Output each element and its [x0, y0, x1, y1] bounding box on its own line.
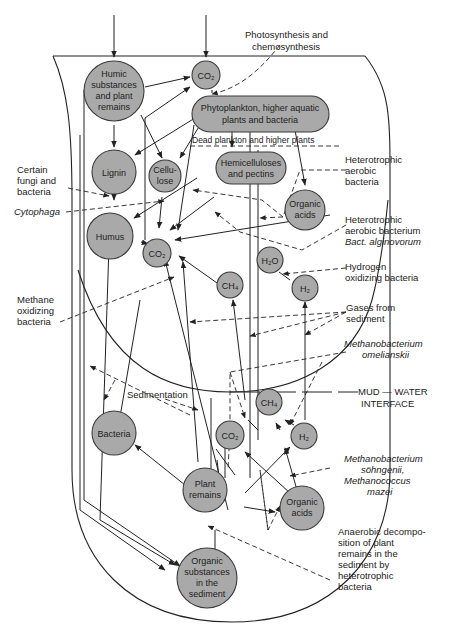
svg-text:Organic: Organic: [286, 497, 318, 507]
svg-text:omelianskii: omelianskii: [362, 349, 410, 360]
svg-text:substances: substances: [91, 80, 137, 90]
node-bacteria: Bacteria: [92, 411, 136, 455]
svg-text:sediment by: sediment by: [338, 559, 389, 570]
svg-text:CH₄: CH₄: [222, 281, 239, 291]
label-methanobacterium-omelianskii: Methanobacterium omelianskii: [344, 338, 423, 360]
svg-text:Methane: Methane: [17, 294, 54, 305]
svg-text:Bact. alginovorum: Bact. alginovorum: [345, 236, 421, 247]
svg-text:bacteria: bacteria: [17, 186, 52, 197]
node-phytoplankton: Phytoplankton, higher aquatic plants and…: [192, 96, 329, 132]
svg-text:Methanobacterium: Methanobacterium: [344, 338, 423, 349]
svg-text:Certain: Certain: [17, 164, 48, 175]
node-co2-low: CO₂: [216, 421, 244, 449]
label-methane-oxidizing: Methane oxidizing bacteria: [17, 294, 54, 327]
node-cellulose: Cellu- lose: [149, 160, 181, 192]
svg-text:Organic: Organic: [289, 199, 321, 209]
svg-text:sition of plant: sition of plant: [338, 537, 394, 548]
svg-text:heterotrophic: heterotrophic: [338, 570, 394, 581]
svg-text:INTERFACE: INTERFACE: [361, 398, 414, 409]
svg-text:Anaerobic decompo-: Anaerobic decompo-: [338, 526, 426, 537]
node-humic-substances: Humic substances and plant remains: [84, 61, 144, 121]
svg-text:substances: substances: [184, 567, 230, 577]
svg-text:Methanococcus: Methanococcus: [344, 475, 411, 486]
svg-text:CO₂: CO₂: [149, 249, 167, 259]
svg-text:H₂: H₂: [300, 284, 310, 294]
svg-text:plants and bacteria: plants and bacteria: [222, 115, 298, 125]
svg-text:H₂O: H₂O: [262, 256, 279, 266]
svg-text:aerobic: aerobic: [345, 165, 376, 176]
svg-text:CO₂: CO₂: [222, 431, 240, 441]
svg-text:Methanobacterium: Methanobacterium: [344, 453, 423, 464]
svg-text:Heterotrophic: Heterotrophic: [345, 214, 402, 225]
label-methanobacterium-sohngenii: Methanobacterium söhngenii, Methanococcu…: [344, 453, 423, 497]
node-h2-mid: H₂: [292, 275, 318, 301]
node-h2-low: H₂: [291, 423, 317, 449]
node-co2-mid: CO₂: [143, 239, 171, 267]
label-dead-plankton: Dead plankton and higher plants: [192, 135, 314, 145]
label-heterotrophic-aerobic-bacteria: Heterotrophic aerobic bacteria: [345, 154, 402, 187]
label-cytophaga: Cytophaga: [14, 206, 60, 217]
node-ch4-low: CH₄: [256, 389, 282, 415]
label-heterotrophic-aerobic-bacterium: Heterotrophic aerobic bacterium Bact. al…: [345, 214, 421, 247]
label-gases-from-sediment: Gases from sediment: [346, 302, 395, 324]
svg-text:chemosynthesis: chemosynthesis: [252, 41, 320, 52]
node-hemicelluloses: Hemicelluloses and pectins: [216, 152, 286, 184]
node-plant-remains: Plant remains: [183, 468, 227, 512]
svg-text:lose: lose: [157, 176, 174, 186]
svg-text:H₂: H₂: [299, 432, 309, 442]
svg-text:and pectins: and pectins: [228, 169, 275, 179]
svg-text:sediment: sediment: [189, 589, 226, 599]
svg-text:bacteria: bacteria: [338, 581, 373, 592]
svg-text:bacteria: bacteria: [17, 316, 52, 327]
svg-text:acids: acids: [291, 508, 313, 518]
svg-text:Hemicelluloses: Hemicelluloses: [221, 158, 282, 168]
lake-carbon-cycle-diagram: Humic substances and plant remains CO₂ P…: [0, 0, 450, 632]
node-organic-acids-low: Organic acids: [280, 486, 324, 530]
svg-text:Gases from: Gases from: [346, 302, 395, 313]
node-humus: Humus: [87, 213, 133, 259]
svg-text:CO₂: CO₂: [198, 71, 216, 81]
svg-text:Hydrogen: Hydrogen: [345, 261, 386, 272]
svg-text:Humus: Humus: [96, 232, 125, 242]
svg-text:and plant: and plant: [95, 91, 133, 101]
svg-text:remains: remains: [98, 102, 131, 112]
svg-text:MUD — WATER: MUD — WATER: [358, 386, 428, 397]
node-organic-substances-sediment: Organic substances in the sediment: [177, 548, 237, 608]
svg-text:Bacteria: Bacteria: [97, 429, 130, 439]
node-co2-top: CO₂: [192, 61, 220, 89]
svg-text:remains in the: remains in the: [338, 548, 398, 559]
svg-text:mazei: mazei: [367, 486, 393, 497]
svg-text:Organic: Organic: [191, 556, 223, 566]
svg-text:Cellu-: Cellu-: [153, 165, 177, 175]
label-mud-water-interface: MUD — WATER INTERFACE: [358, 386, 428, 409]
svg-text:Lignin: Lignin: [102, 168, 126, 178]
svg-text:sediment: sediment: [346, 313, 385, 324]
svg-text:CH₄: CH₄: [261, 398, 278, 408]
svg-text:fungi and: fungi and: [17, 175, 56, 186]
svg-text:söhngenii,: söhngenii,: [361, 464, 404, 475]
svg-text:oxidizing bacteria: oxidizing bacteria: [345, 272, 419, 283]
node-ch4-mid: CH₄: [217, 272, 243, 298]
svg-text:Heterotrophic: Heterotrophic: [345, 154, 402, 165]
node-h2o: H₂O: [257, 247, 283, 273]
svg-text:remains: remains: [189, 490, 222, 500]
node-organic-acids-top: Organic acids: [285, 190, 325, 230]
svg-text:oxidizing: oxidizing: [17, 305, 54, 316]
svg-text:bacteria: bacteria: [345, 176, 380, 187]
label-certain-fungi: Certain fungi and bacteria: [17, 164, 56, 197]
svg-text:Plant: Plant: [195, 479, 216, 489]
svg-text:acids: acids: [294, 210, 316, 220]
label-hydrogen-oxidizing: Hydrogen oxidizing bacteria: [345, 261, 419, 283]
label-anaerobic-decomposition: Anaerobic decompo- sition of plant remai…: [338, 526, 426, 592]
svg-text:in the: in the: [196, 578, 218, 588]
svg-text:aerobic bacterium: aerobic bacterium: [345, 225, 421, 236]
label-photosynthesis: Photosynthesis and chemosynthesis: [245, 29, 328, 52]
label-sedimentation: Sedimentation: [127, 389, 188, 400]
svg-text:Phytoplankton, higher aquatic: Phytoplankton, higher aquatic: [201, 103, 320, 113]
node-lignin: Lignin: [92, 150, 136, 194]
svg-text:Photosynthesis and: Photosynthesis and: [245, 29, 328, 40]
svg-text:Humic: Humic: [101, 69, 127, 79]
